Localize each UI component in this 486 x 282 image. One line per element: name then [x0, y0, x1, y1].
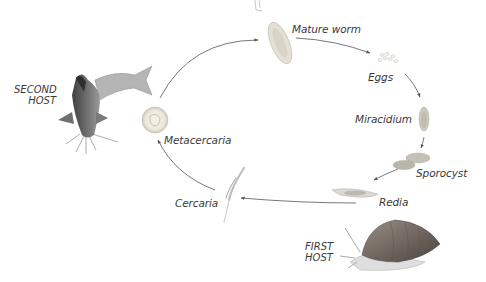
arrow-cercaria-to-metacercaria	[158, 140, 215, 190]
arrow-redia-to-cercaria	[241, 198, 356, 203]
arrow-sporocyst-to-redia	[374, 169, 398, 180]
metacercaria-illustration	[142, 107, 168, 133]
catfish-illustration	[58, 66, 152, 154]
label-redia: Redia	[379, 196, 408, 208]
first-host-label: FIRST HOST	[305, 241, 339, 263]
label-miracidium: Miracidium	[355, 113, 412, 125]
second-host-line1: SECOND	[14, 84, 56, 95]
top-partial-figure	[255, 0, 262, 11]
label-metacercaria: Metacercaria	[164, 134, 231, 146]
label-cercaria: Cercaria	[175, 197, 218, 209]
label-eggs: Eggs	[368, 71, 393, 83]
label-mature-worm: Mature worm	[292, 23, 361, 35]
arrow-eggs-to-miracidium	[405, 74, 420, 97]
first-host-line2: HOST	[305, 252, 339, 263]
second-host-label: SECOND HOST	[14, 84, 56, 106]
eggs-illustration	[378, 53, 398, 63]
arrow-worm-to-eggs	[296, 38, 370, 53]
second-host-line2: HOST	[14, 95, 56, 106]
snail-illustration	[340, 220, 440, 270]
arrow-metacercaria-to-worm	[160, 40, 258, 98]
label-sporocyst: Sporocyst	[416, 167, 467, 179]
redia-illustration	[332, 189, 378, 198]
first-host-line1: FIRST	[305, 241, 339, 252]
arrow-miracidium-to-sporocyst	[421, 137, 424, 148]
cycle-artwork	[0, 0, 486, 282]
miracidium-illustration	[419, 107, 429, 131]
cercaria-illustration	[224, 168, 244, 222]
fluke-life-cycle-diagram: Mature worm Eggs Miracidium Sporocyst Re…	[0, 0, 486, 282]
